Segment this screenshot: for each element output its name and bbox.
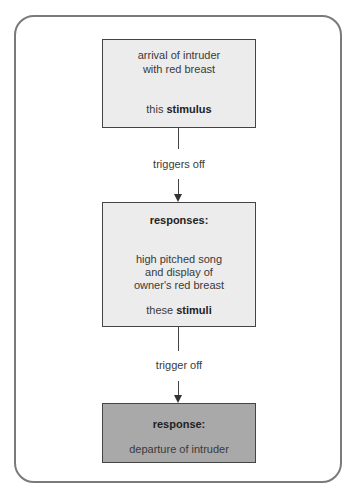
responses-box: responses: high pitched song and display… [102, 202, 256, 327]
arrow-down-icon [174, 194, 182, 202]
connector-line [178, 179, 179, 195]
stimulus-line-1: arrival of intruder [103, 49, 255, 62]
response-box: response: departure of intruder [102, 403, 256, 463]
connector-line [178, 128, 179, 149]
connector-line [178, 381, 179, 396]
response-heading: response: [103, 418, 255, 431]
responses-line-1: high pitched song [103, 253, 255, 266]
footer-bold: stimuli [176, 304, 211, 316]
footer-prefix: these [146, 304, 176, 316]
stimulus-footer: this stimulus [103, 103, 255, 116]
connector-line [178, 327, 179, 351]
stimulus-box: arrival of intruder with red breast this… [102, 39, 256, 128]
responses-footer: these stimuli [103, 304, 255, 317]
responses-heading: responses: [103, 214, 255, 227]
stimulus-line-2: with red breast [103, 63, 255, 76]
responses-line-2: and display of [103, 266, 255, 279]
connector-label-1: triggers off [102, 158, 256, 170]
connector-label-2: trigger off [102, 359, 256, 371]
response-line-1: departure of intruder [103, 443, 255, 456]
responses-line-3: owner's red breast [103, 279, 255, 292]
footer-prefix: this [146, 103, 166, 115]
footer-bold: stimulus [166, 103, 211, 115]
arrow-down-icon [174, 395, 182, 403]
